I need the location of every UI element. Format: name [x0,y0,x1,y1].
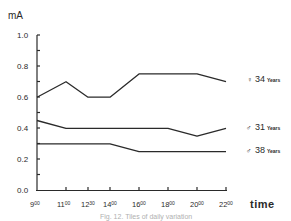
legend-unit: Years [267,77,281,83]
x-axis-title: time [250,198,275,210]
y-tick-label: 0.0 [17,186,29,195]
x-tick-label: 1230 [81,200,95,210]
male-symbol-icon: ♂ [246,124,251,131]
legend-age: 34 [255,74,265,84]
legend-item-male-31: ♂ 31 Years [246,122,281,132]
x-tick-label: 1100 [57,200,71,210]
legend-unit: Years [267,125,281,131]
x-tick-label: 1600 [132,200,146,210]
y-axis-labels: 1.0 0.8 0.6 0.4 0.2 0.0 [17,31,29,195]
legend-item-female-34: ♀ 34 Years [247,74,281,84]
line-chart: mA 1.0 0.8 0.6 0.4 0.2 0.0 [0,0,291,221]
x-tick-label: 1800 [161,200,175,210]
x-tick-label: 2200 [219,200,233,210]
legend-age: 38 [255,145,265,155]
series-line-1 [37,74,226,97]
figure-caption: Fig. 12. Tiles of daily variation [100,213,192,221]
y-tick-label: 0.4 [17,124,29,133]
series-lines [37,74,226,152]
female-symbol-icon: ♀ [247,76,252,83]
male-symbol-icon: ♂ [246,147,251,154]
x-tick-label: 900 [30,200,40,210]
series-line-2 [37,121,226,137]
y-tick-label: 1.0 [17,31,29,40]
legend-unit: Years [267,148,281,154]
series-line-3 [37,144,226,152]
chart-svg: mA 1.0 0.8 0.6 0.4 0.2 0.0 [0,0,291,221]
x-tick-label: 1400 [103,200,117,210]
y-tick-label: 0.2 [17,155,29,164]
x-tick-label: 2000 [190,200,204,210]
legend: ♀ 34 Years ♂ 31 Years ♂ 38 Years [246,74,281,155]
legend-age: 31 [255,122,265,132]
y-tick-label: 0.6 [17,93,29,102]
y-axis-unit-label: mA [8,10,23,21]
y-tick-label: 0.8 [17,62,29,71]
legend-item-male-38: ♂ 38 Years [246,145,281,155]
x-axis-labels: 900 1100 1230 1400 1600 1800 2000 2200 [30,200,233,210]
